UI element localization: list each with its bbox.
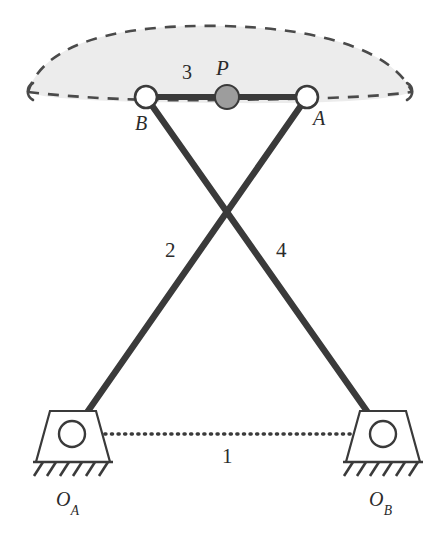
label-link-1: 1 bbox=[222, 446, 233, 467]
label-link-4: 4 bbox=[276, 240, 287, 261]
ground-support-oa bbox=[33, 411, 113, 476]
support-ob-hatching bbox=[344, 462, 418, 476]
pivot-ob-joint bbox=[370, 421, 396, 447]
label-pivot-ob-letter: O bbox=[369, 488, 383, 510]
pivot-oa-joint bbox=[59, 421, 85, 447]
label-point-b: B bbox=[135, 113, 147, 133]
coupler-point-p-marker bbox=[215, 85, 239, 109]
label-pivot-ob-subscript: B bbox=[384, 503, 392, 518]
label-link-2: 2 bbox=[165, 240, 176, 261]
link-4-line bbox=[146, 97, 383, 434]
label-link-3: 3 bbox=[182, 62, 192, 82]
label-pivot-oa: OA bbox=[56, 489, 79, 514]
label-point-p: P bbox=[216, 58, 229, 79]
label-pivot-ob: OB bbox=[369, 489, 392, 514]
label-point-a: A bbox=[313, 108, 325, 128]
label-pivot-oa-letter: O bbox=[56, 488, 70, 510]
linkage-figure: P A B 3 2 4 1 OA OB bbox=[0, 0, 445, 533]
joint-b-circle bbox=[135, 86, 157, 108]
ground-support-ob bbox=[343, 411, 423, 476]
support-oa-hatching bbox=[34, 462, 108, 476]
label-pivot-oa-subscript: A bbox=[71, 503, 79, 518]
joint-a-circle bbox=[296, 86, 318, 108]
link-2-line bbox=[72, 97, 307, 434]
